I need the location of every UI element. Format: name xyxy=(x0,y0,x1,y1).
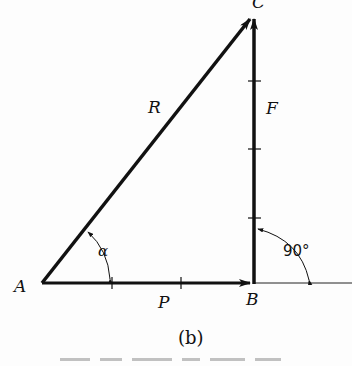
vertex-c-label: C xyxy=(252,0,265,11)
vertex-b-label: B xyxy=(246,291,259,308)
cutoff-text-line xyxy=(60,358,310,366)
vector-r-arrow xyxy=(42,19,250,283)
vertex-a-label: A xyxy=(14,278,26,295)
figure-caption: (b) xyxy=(178,329,204,347)
vector-p-label: P xyxy=(158,294,169,311)
vector-triangle-figure: C R F α 90° A B P (b) xyxy=(0,0,352,366)
alpha-label: α xyxy=(98,244,108,259)
triangle-drawing xyxy=(0,0,352,366)
vector-f-label: F xyxy=(266,100,278,117)
right-angle-label: 90° xyxy=(283,244,310,259)
vector-r-label: R xyxy=(148,99,161,116)
